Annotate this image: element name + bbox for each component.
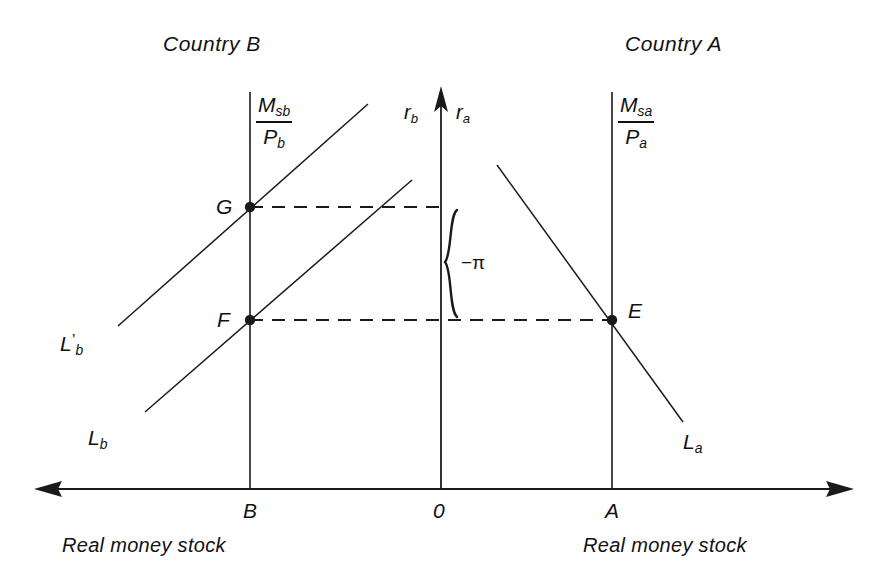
diagram-canvas (0, 0, 888, 581)
horizontal-axis-right-arrowhead (826, 481, 854, 497)
tick-label-a: A (605, 500, 619, 521)
curve-l-prime-b (118, 104, 368, 326)
horizontal-axis-left-arrowhead (34, 481, 62, 497)
curve-l-b (145, 180, 412, 412)
money-supply-denominator-a: Pa (618, 125, 654, 151)
point-marker-e (607, 315, 617, 325)
fraction-bar-a (618, 121, 654, 123)
money-supply-fraction-b: Msb Pb (256, 94, 292, 151)
point-label-e: E (628, 300, 642, 321)
brace-pi (445, 210, 457, 317)
caption-left: Real money stock (62, 535, 226, 555)
money-supply-fraction-a: Msa Pa (618, 94, 654, 151)
axis-label-ra: ra (456, 102, 470, 125)
curve-l-a (497, 165, 683, 422)
curve-label-l-prime-b: L’b (60, 333, 83, 358)
curve-label-l-b: Lb (88, 427, 107, 452)
tick-label-origin: 0 (433, 500, 445, 521)
header-country-a: Country A (625, 33, 722, 54)
money-supply-numerator-a: Msa (618, 94, 654, 120)
fraction-bar-b (256, 121, 292, 123)
curve-label-l-a: La (683, 431, 702, 456)
axis-label-rb: rb (404, 102, 418, 125)
point-label-g: G (216, 196, 232, 217)
annotation-minus-pi: −π (461, 253, 485, 272)
point-marker-g (245, 202, 255, 212)
caption-right: Real money stock (583, 535, 747, 555)
header-country-b: Country B (163, 33, 261, 54)
economics-diagram: Country B Country A Msb Pb Msa Pa rb ra … (0, 0, 888, 581)
point-marker-f (245, 315, 255, 325)
money-supply-denominator-b: Pb (256, 125, 292, 151)
tick-label-b: B (243, 500, 257, 521)
money-supply-numerator-b: Msb (256, 94, 292, 120)
point-label-f: F (217, 309, 230, 330)
